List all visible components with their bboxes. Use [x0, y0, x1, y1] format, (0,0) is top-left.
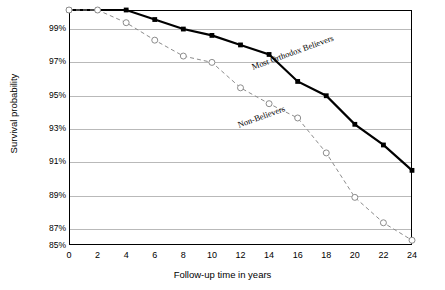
data-point-marker [95, 7, 101, 13]
y-tick-label: 89% [30, 190, 66, 200]
data-point-marker [181, 27, 186, 32]
y-tick-label: 85% [30, 240, 66, 250]
data-point-marker [180, 53, 186, 59]
y-tick-label: 91% [30, 156, 66, 166]
x-tick-label: 20 [343, 250, 367, 260]
x-tick-label: 6 [143, 250, 167, 260]
x-tick-label: 10 [200, 250, 224, 260]
survival-probability-chart: 99% 97% 95% 93% 91% 89% 87% 85% 02468101… [0, 0, 445, 290]
x-tick-label: 14 [257, 250, 281, 260]
data-point-marker [352, 194, 358, 200]
y-tick-label: 95% [30, 90, 66, 100]
data-point-marker [266, 101, 272, 107]
data-point-marker [209, 59, 215, 65]
x-tick-label: 0 [57, 250, 81, 260]
y-tick-label: 97% [30, 56, 66, 66]
x-tick-label: 8 [171, 250, 195, 260]
x-tick-label: 22 [371, 250, 395, 260]
x-tick-label: 18 [314, 250, 338, 260]
data-point-marker [152, 17, 157, 22]
x-tick-label: 16 [286, 250, 310, 260]
data-point-marker [323, 150, 329, 156]
x-axis-title: Follow-up time in years [0, 269, 445, 280]
y-axis-title: Survival probability [8, 49, 19, 179]
data-point-marker [123, 20, 129, 26]
x-tick-label: 12 [229, 250, 253, 260]
data-point-marker [380, 220, 386, 226]
y-tick-label: 87% [30, 223, 66, 233]
data-point-marker [295, 79, 300, 84]
x-tick-label: 2 [86, 250, 110, 260]
data-point-marker [409, 237, 415, 243]
data-point-marker [66, 7, 72, 13]
data-point-marker [324, 93, 329, 98]
data-point-marker [210, 33, 215, 38]
data-point-marker [238, 85, 244, 91]
data-point-marker [381, 143, 386, 148]
data-point-marker [238, 43, 243, 48]
data-point-marker [410, 168, 415, 173]
data-point-marker [152, 37, 158, 43]
data-point-marker [295, 115, 301, 121]
x-tick-label: 24 [400, 250, 424, 260]
y-tick-label: 99% [30, 23, 66, 33]
y-tick-label: 93% [30, 123, 66, 133]
data-point-marker [124, 8, 129, 13]
x-tick-label: 4 [114, 250, 138, 260]
data-point-marker [352, 122, 357, 127]
